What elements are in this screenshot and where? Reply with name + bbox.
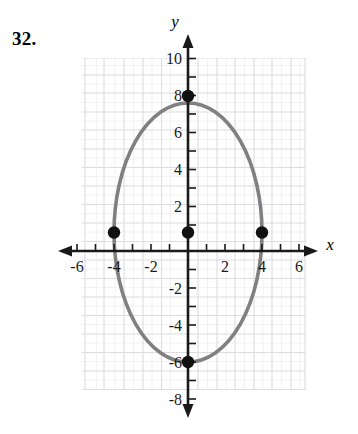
x-tick-label: -2 [144, 258, 157, 275]
point-marker [108, 226, 120, 238]
figure-container: 32. [0, 0, 358, 434]
point-marker [182, 226, 194, 238]
point-marker [256, 226, 268, 238]
point-marker [182, 90, 194, 102]
y-tick-label: -4 [169, 317, 182, 334]
y-tick-label: 4 [174, 161, 182, 178]
grid-major-vertical [85, 58, 305, 390]
x-tick-label: -6 [70, 258, 83, 275]
y-tick-label: -2 [169, 280, 182, 297]
y-tick-label: 2 [174, 198, 182, 215]
y-tick-label: 10 [166, 50, 182, 67]
x-tick-label: -4 [107, 258, 120, 275]
y-tick-label: -6 [169, 354, 182, 371]
x-tick-label: 4 [258, 258, 266, 275]
point-marker [182, 356, 194, 368]
y-axis-label: y [169, 12, 179, 31]
y-axis-down-arrow-icon [183, 404, 194, 418]
x-axis-left-arrow-icon [58, 246, 72, 257]
x-tick-label: 2 [221, 258, 229, 275]
x-axis-label: x [325, 235, 334, 254]
x-axis-right-arrow-icon [304, 246, 318, 257]
y-tick-label: 6 [174, 124, 182, 141]
y-tick-label: -8 [169, 391, 182, 408]
y-axis-up-arrow-icon [183, 34, 194, 48]
y-tick-labels: 10 8 6 4 2 -2 -4 -6 -8 [166, 50, 182, 408]
x-tick-label: 6 [295, 258, 303, 275]
coordinate-graph: -6 -4 -2 2 4 6 10 8 6 4 2 -2 -4 -6 -8 x … [0, 0, 358, 434]
problem-number-label: 32. [12, 28, 37, 50]
y-tick-label: 8 [174, 87, 182, 104]
